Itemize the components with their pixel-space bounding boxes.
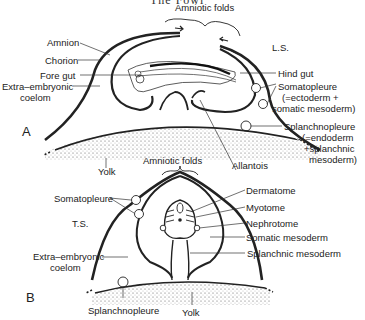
label-chorion: Chorion xyxy=(45,55,78,66)
label-hind-gut: Hind gut xyxy=(278,68,313,79)
panel-a-letter: A xyxy=(22,126,31,137)
panel-b-drawing xyxy=(86,166,273,305)
label-extra-coelom-a-2: coelom xyxy=(20,92,51,103)
label-extra-coelom-b-1: Extra–embryonic xyxy=(33,251,104,262)
label-splanchnopleure-a-2: (=endoderm xyxy=(302,132,354,143)
label-section-ls: L.S. xyxy=(272,42,289,53)
label-amniotic-folds-b: Amniotic folds xyxy=(143,155,202,166)
label-myotome: Myotome xyxy=(246,202,285,213)
panel-b-letter: B xyxy=(26,292,35,303)
label-yolk-a: Yolk xyxy=(98,166,116,177)
label-somatopleure-a-1: Somatopleure xyxy=(278,81,337,92)
label-extra-coelom-a-1: Extra–embryonic xyxy=(2,81,73,92)
label-splanchnopleure-a-4: mesoderm) xyxy=(309,154,357,165)
label-somatopleure-a-3: somatic mesoderm) xyxy=(272,103,355,114)
label-somatopleure-b: Somatopleure xyxy=(54,193,113,204)
label-extra-coelom-b-2: coelom xyxy=(50,262,81,273)
label-amnion: Amnion xyxy=(47,37,79,48)
label-splanchnopleure-a-1: Splanchnopleure xyxy=(284,121,355,132)
label-somatic-mesoderm: Somatic mesoderm xyxy=(246,232,328,243)
label-fore-gut: Fore gut xyxy=(40,70,75,81)
label-splanchnopleure-a-3: +splanchnic xyxy=(304,143,354,154)
label-somatopleure-a-2: (=ectoderm + xyxy=(282,92,339,103)
label-splanchnic-mesoderm: Splanchnic mesoderm xyxy=(247,248,341,259)
label-nephrotome: Nephrotome xyxy=(246,218,298,229)
label-splanchnopleure-b: Splanchnopleure xyxy=(88,305,159,316)
label-amniotic-folds-a: Amniotic folds xyxy=(175,2,234,13)
label-section-ts: T.S. xyxy=(72,218,88,229)
label-dermatome: Dermatome xyxy=(246,185,296,196)
label-allantois: Allantois xyxy=(232,160,268,171)
label-yolk-b: Yolk xyxy=(182,307,200,318)
